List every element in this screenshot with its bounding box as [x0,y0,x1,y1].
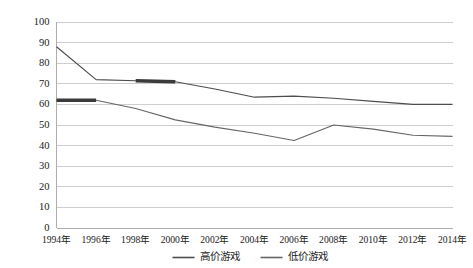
y-tick-label: 20 [39,181,50,192]
y-tick-label: 90 [39,37,50,48]
x-axis-tick-labels: 1994年1996年1998年2000年2002年2004年2006年2008年… [42,234,467,245]
legend-label-2: 低价游戏 [288,250,329,262]
line-chart: 0102030405060708090100 1994年1996年1998年20… [0,0,473,268]
y-tick-label: 50 [39,119,50,130]
x-tick-label: 2012年 [398,234,427,245]
x-tick-label: 2014年 [438,234,467,245]
y-tick-label: 40 [39,140,50,151]
legend-label-1: 高价游戏 [200,250,241,262]
x-tick-label: 1996年 [82,234,111,245]
y-tick-label: 100 [34,16,50,27]
x-tick-label: 2002年 [200,234,229,245]
x-tick-label: 2004年 [240,234,269,245]
chart-canvas: 0102030405060708090100 1994年1996年1998年20… [0,0,473,268]
x-tick-label: 2008年 [319,234,348,245]
x-tick-label: 2010年 [359,234,388,245]
y-tick-label: 80 [39,57,50,68]
x-tick-label: 2000年 [161,234,190,245]
y-tick-label: 70 [39,78,50,89]
y-tick-label: 0 [44,222,49,233]
series-emphasis-segment-1 [136,81,176,82]
x-tick-label: 2006年 [280,234,309,245]
x-tick-label: 1998年 [121,234,150,245]
x-tick-label: 1994年 [42,234,71,245]
y-tick-label: 60 [39,98,50,109]
y-tick-label: 10 [39,201,50,212]
y-tick-label: 30 [39,160,50,171]
